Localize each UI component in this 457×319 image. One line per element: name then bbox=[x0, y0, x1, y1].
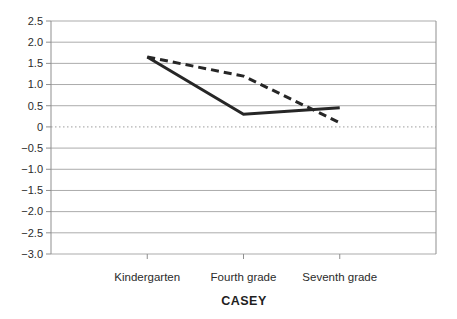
y-tick-label: 2.5 bbox=[28, 15, 43, 27]
y-tick-label: −3.0 bbox=[21, 248, 43, 260]
x-category-label: Kindergarten bbox=[114, 271, 180, 283]
y-tick-label: 2.0 bbox=[28, 36, 43, 48]
y-tick-label: −0.5 bbox=[21, 142, 43, 154]
y-tick-label: 1.5 bbox=[28, 57, 43, 69]
chart-xlabel: CASEY bbox=[221, 294, 267, 308]
y-tick-label: 0 bbox=[37, 121, 43, 133]
y-tick-label: −1.5 bbox=[21, 184, 43, 196]
y-tick-label: −2.0 bbox=[21, 205, 43, 217]
chart-plot-area: 2.52.01.51.00.50−0.5−1.0−1.5−2.0−2.5−3.0… bbox=[21, 15, 436, 283]
grade-trend-line-chart: 2.52.01.51.00.50−0.5−1.0−1.5−2.0−2.5−3.0… bbox=[0, 0, 457, 319]
y-tick-label: −1.0 bbox=[21, 163, 43, 175]
y-tick-label: −2.5 bbox=[21, 227, 43, 239]
x-category-label: Seventh grade bbox=[302, 271, 377, 283]
y-tick-label: 0.5 bbox=[28, 100, 43, 112]
y-tick-label: 1.0 bbox=[28, 78, 43, 90]
x-category-label: Fourth grade bbox=[211, 271, 277, 283]
line-chart-figure: 2.52.01.51.00.50−0.5−1.0−1.5−2.0−2.5−3.0… bbox=[0, 0, 457, 319]
